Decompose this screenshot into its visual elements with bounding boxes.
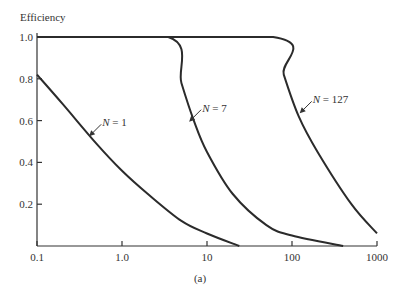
x-tick-label: 1000: [366, 251, 389, 263]
series-n1: [37, 75, 239, 246]
annotation-label: N = 1: [101, 116, 127, 128]
figure-caption: (a): [194, 272, 207, 285]
annotation-label: N = 7: [201, 102, 227, 114]
y-tick-label: 0.8: [19, 73, 33, 85]
x-tick-label: 100: [284, 251, 301, 263]
annotation-label: N = 127: [312, 93, 349, 105]
y-tick-label: 0.2: [19, 198, 33, 210]
series-n7: [37, 37, 343, 246]
y-tick-label: 1.0: [19, 31, 33, 43]
efficiency-chart: 0.11.01010010000.20.40.60.81.0 N = 1N = …: [0, 0, 402, 296]
x-tick-label: 1.0: [115, 251, 129, 263]
y-tick-label: 0.4: [19, 156, 33, 168]
curves: [37, 37, 377, 246]
x-tick-label: 10: [202, 251, 214, 263]
x-tick-label: 0.1: [30, 251, 44, 263]
y-axis-label: Efficiency: [20, 11, 66, 23]
y-tick-label: 0.6: [19, 115, 33, 127]
annotations: N = 1N = 7N = 127: [89, 93, 349, 136]
